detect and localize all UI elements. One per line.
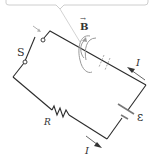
bottom-wire	[69, 115, 107, 139]
right-wire-upper	[128, 85, 146, 110]
switch-label: S	[17, 46, 25, 59]
magnetic-field-loops	[79, 36, 96, 73]
current-label-bottom: I	[84, 145, 90, 156]
emf-label: ε	[137, 110, 143, 124]
switch-arm	[25, 37, 35, 61]
left-wire	[13, 77, 52, 110]
switch-motion-arrow-icon	[33, 26, 41, 32]
vector-arrow-icon: →	[80, 15, 86, 23]
battery-icon	[118, 104, 134, 119]
switch-lead-wire	[13, 63, 24, 77]
switch-upper-contact	[41, 38, 45, 42]
circuit-diagram: S B → R ε I I	[0, 0, 155, 168]
callout-pointer	[60, 9, 80, 42]
top-wire	[44, 31, 146, 85]
resistor-label: R	[43, 117, 51, 127]
callout-bubble	[6, 0, 148, 42]
wire-cut-marks	[99, 55, 110, 70]
current-label-top: I	[135, 57, 141, 68]
resistor-zigzag	[52, 106, 69, 117]
right-wire-lower	[107, 118, 122, 139]
switch-pivot-contact	[23, 60, 27, 64]
current-arrow-top	[127, 67, 145, 80]
